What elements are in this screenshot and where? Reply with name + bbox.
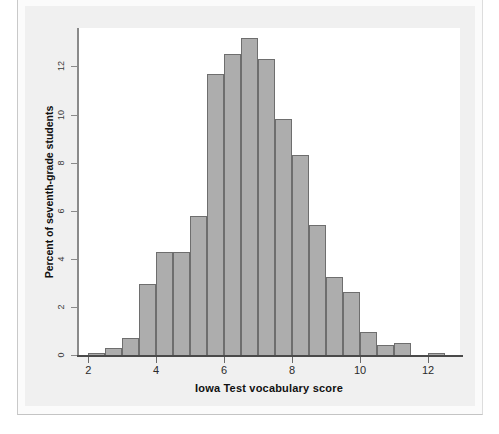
y-tick-mark bbox=[71, 259, 77, 260]
x-tick-mark bbox=[360, 357, 361, 363]
y-tick-mark bbox=[71, 355, 77, 356]
y-tick-label-text: 8 bbox=[56, 156, 66, 170]
histogram-bar bbox=[241, 38, 258, 355]
histogram-bar bbox=[105, 348, 122, 355]
histogram-bar bbox=[190, 216, 207, 355]
y-tick-mark bbox=[71, 115, 77, 116]
x-tick-mark bbox=[156, 357, 157, 363]
histogram-bar bbox=[377, 345, 394, 355]
y-tick-label-text: 6 bbox=[56, 204, 66, 218]
x-tick-mark bbox=[292, 357, 293, 363]
y-axis-title-text: Percent of seventh-grade students bbox=[40, 28, 56, 355]
x-tick-label: 4 bbox=[146, 364, 166, 376]
y-tick-label-text: 12 bbox=[56, 59, 66, 73]
histogram-bar bbox=[88, 353, 105, 355]
x-tick-label: 2 bbox=[78, 364, 98, 376]
y-tick-label-text: 10 bbox=[56, 108, 66, 122]
x-tick-label: 12 bbox=[418, 364, 438, 376]
histogram-bar bbox=[309, 225, 326, 355]
figure-page: 024681012 24681012 Iowa Test vocabulary … bbox=[0, 0, 499, 434]
y-tick-label-text: 0 bbox=[56, 348, 66, 362]
x-tick-mark bbox=[224, 357, 225, 363]
histogram-bar bbox=[156, 252, 173, 355]
x-tick-label: 10 bbox=[350, 364, 370, 376]
histogram-bar bbox=[326, 277, 343, 355]
histogram-bar bbox=[343, 292, 360, 355]
histogram-bar bbox=[139, 284, 156, 355]
y-axis-title: Percent of seventh-grade students bbox=[40, 28, 56, 355]
x-tick-label: 8 bbox=[282, 364, 302, 376]
y-tick-mark bbox=[71, 66, 77, 67]
histogram-bar bbox=[394, 343, 411, 355]
x-axis-title: Iowa Test vocabulary score bbox=[78, 382, 460, 394]
x-tick-label: 6 bbox=[214, 364, 234, 376]
y-tick-label-text: 2 bbox=[56, 300, 66, 314]
histogram-bar bbox=[258, 59, 275, 355]
histogram-bar bbox=[224, 54, 241, 355]
y-tick-mark bbox=[71, 163, 77, 164]
y-tick-label-text: 4 bbox=[56, 252, 66, 266]
histogram-bar bbox=[360, 332, 377, 355]
y-axis-line bbox=[77, 28, 79, 356]
x-tick-mark bbox=[88, 357, 89, 363]
histogram-bar bbox=[122, 338, 139, 355]
y-tick-mark bbox=[71, 307, 77, 308]
histogram-bar bbox=[207, 74, 224, 355]
histogram-bar bbox=[173, 252, 190, 355]
histogram-bar bbox=[428, 353, 445, 355]
x-tick-mark bbox=[428, 357, 429, 363]
histogram-bar bbox=[292, 155, 309, 355]
x-axis-line bbox=[77, 355, 463, 357]
y-tick-mark bbox=[71, 211, 77, 212]
histogram-bar bbox=[275, 119, 292, 355]
